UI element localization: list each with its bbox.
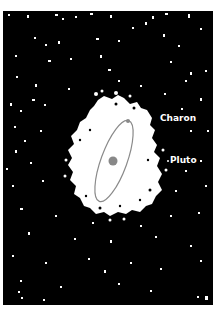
pluto-charon-halo (64, 90, 168, 222)
pluto-marker (109, 157, 118, 166)
pluto-label: Pluto (170, 155, 197, 165)
pluto-leader-dot (167, 160, 169, 162)
charon-label: Charon (160, 113, 196, 123)
charon-marker (126, 119, 130, 123)
